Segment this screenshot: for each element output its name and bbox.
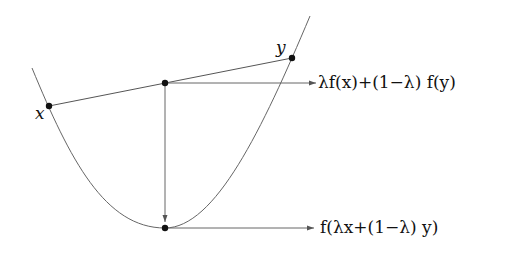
y-label: y bbox=[276, 39, 286, 56]
point-curve-min bbox=[162, 225, 168, 231]
x-label: x bbox=[35, 105, 45, 122]
point-x bbox=[46, 103, 52, 109]
convex-curve bbox=[32, 16, 310, 228]
lower-formula-label: f(λx+(1−λ) y) bbox=[320, 219, 438, 236]
point-y bbox=[289, 55, 295, 61]
chord-line bbox=[49, 58, 292, 106]
convexity-diagram: x y λf(x)+(1−λ) f(y) f(λx+(1−λ) y) bbox=[0, 0, 526, 257]
point-chord bbox=[162, 80, 168, 86]
upper-formula-label: λf(x)+(1−λ) f(y) bbox=[318, 74, 456, 91]
diagram-svg bbox=[0, 0, 526, 257]
